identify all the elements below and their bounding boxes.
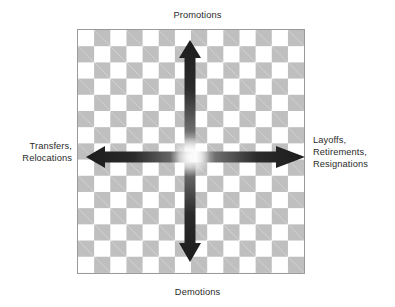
checkerboard-grid <box>77 29 305 274</box>
label-layoffs-retirements-resignations: Layoffs, Retirements, Resignations <box>313 134 393 170</box>
label-promotions: Promotions <box>0 9 395 21</box>
diagram-canvas: Promotions Transfers, Relocations Layoff… <box>0 0 395 307</box>
label-demotions: Demotions <box>0 286 395 298</box>
label-transfers-relocations: Transfers, Relocations <box>6 140 72 164</box>
